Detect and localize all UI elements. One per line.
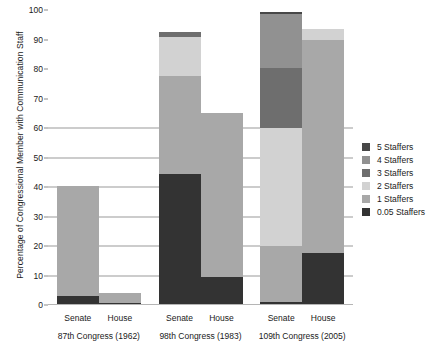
bar-segment [159, 174, 201, 305]
y-axis-title: Percentage of Congressional Member with … [15, 5, 25, 305]
legend-item: 5 Staffers [362, 140, 425, 153]
x-axis-baseline [48, 304, 353, 305]
y-tick-label: 40 [34, 182, 43, 192]
stacked-bar-chart: Percentage of Congressional Member with … [0, 0, 446, 361]
bar [302, 29, 344, 305]
bar-segment [201, 113, 243, 277]
legend-swatch-icon [362, 156, 370, 164]
y-tick-label: 70 [34, 94, 43, 104]
legend-item: 4 Staffers [362, 153, 425, 166]
y-tick-label: 20 [34, 241, 43, 251]
series-label: Senate [166, 313, 193, 323]
legend-label: 3 Staffers [377, 168, 413, 178]
bar-segment [57, 186, 99, 297]
legend-swatch-icon [362, 208, 370, 216]
bar-segment [159, 32, 201, 36]
bar [159, 32, 201, 305]
group-label: 87th Congress (1962) [58, 331, 140, 341]
y-tick-mark [44, 69, 48, 70]
bar-segment [302, 29, 344, 39]
bar-segment [260, 128, 302, 246]
group-label: 98th Congress (1983) [159, 331, 241, 341]
legend-swatch-icon [362, 182, 370, 190]
series-label: Senate [64, 313, 91, 323]
bar-segment [260, 246, 302, 302]
legend-swatch-icon [362, 169, 370, 177]
legend-item: 1 Staffers [362, 192, 425, 205]
group-label: 109th Congress (2005) [259, 331, 346, 341]
legend-item: 3 Staffers [362, 166, 425, 179]
y-tick-label: 0 [38, 300, 43, 310]
bar [201, 113, 243, 305]
legend-swatch-icon [362, 195, 370, 203]
y-tick-label: 30 [34, 212, 43, 222]
legend-label: 0.05 Staffers [377, 207, 425, 217]
bar-segment [99, 293, 141, 302]
legend-swatch-icon [362, 143, 370, 151]
bar [260, 11, 302, 305]
legend-label: 1 Staffers [377, 194, 413, 204]
series-label: House [209, 313, 234, 323]
legend: 5 Staffers4 Staffers3 Staffers2 Staffers… [362, 140, 425, 218]
bar-segment [159, 76, 201, 173]
y-tick-mark [44, 39, 48, 40]
bar-segment [302, 40, 344, 254]
legend-item: 0.05 Staffers [362, 205, 425, 218]
bar [57, 186, 99, 305]
y-tick-label: 10 [34, 271, 43, 281]
bar-segment [302, 253, 344, 305]
plot-area: 0102030405060708090100 [48, 10, 353, 305]
legend-label: 4 Staffers [377, 155, 413, 165]
y-tick-label: 90 [34, 35, 43, 45]
bar-segment [260, 68, 302, 128]
y-tick-label: 50 [34, 153, 43, 163]
bar-segment [159, 37, 201, 77]
legend-label: 5 Staffers [377, 142, 413, 152]
series-label: House [108, 313, 133, 323]
bar-segment [260, 14, 302, 67]
bar-segment [260, 12, 302, 15]
legend-label: 2 Staffers [377, 181, 413, 191]
legend-item: 2 Staffers [362, 179, 425, 192]
series-label: House [311, 313, 336, 323]
y-tick-label: 60 [34, 123, 43, 133]
bar-segment [201, 277, 243, 305]
y-tick-mark [44, 98, 48, 99]
series-label: Senate [268, 313, 295, 323]
y-tick-mark [44, 10, 48, 11]
y-tick-label: 100 [29, 5, 43, 15]
y-tick-label: 80 [34, 64, 43, 74]
